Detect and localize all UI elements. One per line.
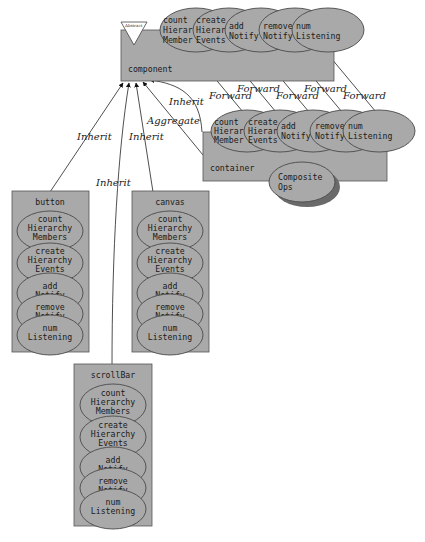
svg-text:Hierar: Hierar [196,25,226,35]
svg-text:Notify: Notify [315,131,345,141]
button-label: button [35,197,65,207]
svg-text:Members: Members [153,232,188,242]
label-canvas-inherit: Inherit [128,131,165,142]
canvas-method-numlistening[interactable]: num Listening [137,315,203,355]
svg-text:remove: remove [263,21,293,31]
scrollbar-method-numlistening[interactable]: num Listening [80,489,146,529]
svg-text:Listening: Listening [148,332,192,342]
scrollbar-label: scrollBar [91,370,135,380]
svg-text:Member: Member [214,135,244,145]
button-method-numlistening[interactable]: num Listening [17,315,83,355]
node-component[interactable]: Abstract component count Hierar Member c… [121,8,364,81]
svg-text:Members: Members [96,406,131,416]
svg-text:count: count [163,15,188,25]
svg-text:Hierar: Hierar [163,25,193,35]
diagram-canvas: Inherit Inherit Inherit Aggregate Inheri… [0,0,425,542]
svg-text:Events: Events [98,438,128,448]
node-container[interactable]: container count Hierar Member create Hie… [203,110,415,207]
svg-text:Notify: Notify [281,131,311,141]
svg-text:Notify: Notify [263,31,293,41]
node-scrollbar[interactable]: scrollBar count Hierarchy Members create… [74,364,152,529]
svg-text:Listening: Listening [348,131,392,141]
node-button[interactable]: button count Hierarchy Members create Hi… [12,191,89,355]
label-forward-2: Forward [236,83,280,94]
svg-text:Events: Events [196,35,226,45]
label-container-inherit: Inherit [168,96,205,107]
svg-text:Events: Events [155,264,185,274]
svg-text:Listening: Listening [296,31,340,41]
svg-text:Members: Members [33,232,68,242]
label-forward-5: Forward [342,90,386,101]
container-method-numlistening[interactable]: num Listening [343,110,415,152]
container-label: container [210,163,254,173]
svg-text:create: create [196,15,226,25]
svg-text:Listening: Listening [28,332,72,342]
canvas-label: canvas [155,197,185,207]
label-scrollbar-inherit: Inherit [95,177,132,188]
svg-text:Member: Member [163,35,193,45]
svg-text:remove: remove [315,121,345,131]
svg-text:Listening: Listening [91,506,135,516]
stereotype-label: Abstract [124,23,143,28]
svg-text:Ops: Ops [278,182,293,192]
node-canvas[interactable]: canvas count Hierarchy Members create Hi… [132,191,209,355]
label-container-aggregate: Aggregate [146,115,200,126]
svg-text:num: num [348,121,363,131]
svg-text:Events: Events [248,135,278,145]
component-method-numlistening[interactable]: num Listening [292,8,364,52]
svg-text:add: add [229,21,244,31]
svg-text:Notify: Notify [229,31,259,41]
edge-scrollbar-inherit [112,83,129,368]
svg-text:Events: Events [35,264,65,274]
component-label: component [128,64,172,74]
svg-text:num: num [296,21,311,31]
label-forward-4: Forward [303,83,347,94]
label-button-inherit: Inherit [76,131,113,142]
svg-text:add: add [281,121,296,131]
svg-text:Composite: Composite [278,172,322,182]
